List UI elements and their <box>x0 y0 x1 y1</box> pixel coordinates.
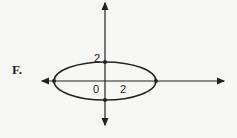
origin-label: 0 <box>93 83 99 95</box>
y-tick-label: 2 <box>94 52 100 64</box>
ellipse-graph: 2 0 2 <box>0 0 237 138</box>
vertex-point <box>52 79 56 83</box>
vertex-point <box>154 79 158 83</box>
x-tick-label: 2 <box>120 83 126 95</box>
covertex-point <box>103 60 107 64</box>
covertex-point <box>103 98 107 102</box>
